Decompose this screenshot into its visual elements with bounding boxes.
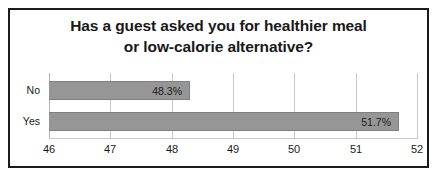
x-axis-tick-label: 49 (227, 143, 239, 155)
category-label-no: No (27, 84, 40, 96)
chart-frame-border: Has a guest asked you for healthier meal… (8, 8, 429, 168)
category-axis-labels: No Yes (10, 73, 46, 139)
x-axis-tick-label: 50 (288, 143, 300, 155)
bar-row: 51.7% (49, 112, 417, 131)
bar-no[interactable]: 48.3% (49, 81, 190, 100)
plot-area: 48.3% 51.7% (49, 73, 417, 139)
bar-value-label-no: 48.3% (152, 85, 189, 97)
x-axis-tick-labels: 46474849505152 (49, 143, 417, 161)
bar-row: 48.3% (49, 81, 417, 100)
x-axis-baseline (49, 138, 417, 139)
chart-title-line-1: Has a guest asked you for healthier meal (10, 15, 427, 36)
bar-yes[interactable]: 51.7% (49, 112, 399, 131)
bar-value-label-yes: 51.7% (361, 116, 398, 128)
chart-container: Has a guest asked you for healthier meal… (0, 0, 439, 177)
chart-title-line-2: or low-calorie alternative? (10, 36, 427, 57)
x-axis-tick-label: 51 (350, 143, 362, 155)
gridline (417, 73, 418, 139)
x-axis-tick-label: 46 (43, 143, 55, 155)
category-label-yes: Yes (23, 115, 40, 127)
chart-title: Has a guest asked you for healthier meal… (10, 15, 427, 57)
x-axis-tick-label: 48 (166, 143, 178, 155)
x-axis-tick-label: 47 (104, 143, 116, 155)
x-axis-tick-label: 52 (411, 143, 423, 155)
